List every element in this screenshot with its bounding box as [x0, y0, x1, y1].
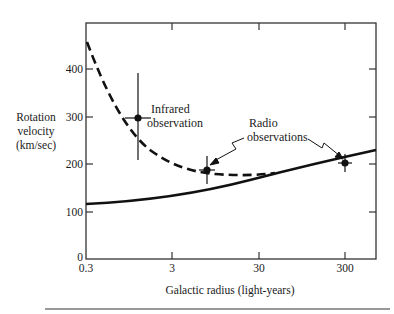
- y-tick-labels: 400 300 200 100 0: [66, 63, 84, 263]
- svg-text:400: 400: [66, 63, 84, 75]
- svg-text:300: 300: [336, 262, 354, 274]
- infrared-annotation: Infrared observation: [147, 102, 203, 130]
- svg-text:Infrared: Infrared: [151, 102, 190, 116]
- svg-text:Rotation: Rotation: [16, 111, 56, 123]
- solid-curve: [86, 150, 376, 204]
- svg-text:3: 3: [169, 262, 175, 274]
- svg-text:0.3: 0.3: [79, 262, 94, 274]
- radio-arrow-left-icon: [210, 138, 244, 165]
- svg-text:(km/sec): (km/sec): [16, 139, 56, 152]
- rotation-curve-chart: 400 300 200 100 0 0.3 3 30 300 Rotation …: [0, 0, 394, 314]
- radio-arrow-right-icon: [308, 139, 343, 159]
- svg-text:Radio: Radio: [249, 116, 278, 130]
- radio-annotation: Radio observations: [247, 116, 308, 144]
- radio-data-point-1: [199, 156, 215, 184]
- svg-text:30: 30: [253, 262, 265, 274]
- svg-text:observations: observations: [247, 130, 308, 144]
- x-tick-labels: 0.3 3 30 300: [79, 262, 354, 274]
- plot-frame: [86, 23, 376, 259]
- y-axis-title: Rotation velocity (km/sec): [16, 111, 56, 152]
- svg-text:300: 300: [66, 111, 84, 123]
- svg-text:200: 200: [66, 158, 84, 170]
- svg-text:velocity: velocity: [17, 125, 54, 138]
- y-axis-ticks: [86, 69, 376, 212]
- svg-text:100: 100: [66, 206, 84, 218]
- x-axis-title: Galactic radius (light-years): [166, 284, 295, 297]
- svg-text:observation: observation: [147, 116, 203, 130]
